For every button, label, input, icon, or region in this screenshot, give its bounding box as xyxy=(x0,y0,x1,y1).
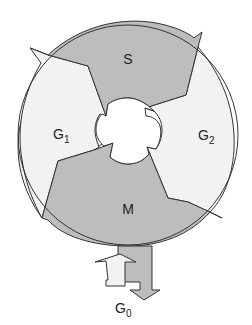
s-phase-label: S xyxy=(123,51,132,67)
cell-cycle-diagram: S G2 M G1 G0 xyxy=(0,0,252,325)
g0-phase-label: G0 xyxy=(115,300,132,319)
m-phase-label: M xyxy=(122,201,134,217)
